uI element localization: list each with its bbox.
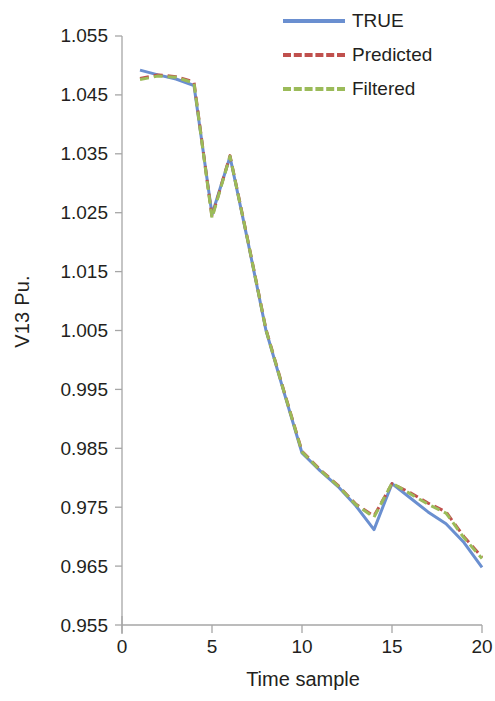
axes	[115, 36, 482, 634]
series-line-true	[140, 70, 482, 567]
plot-area	[0, 0, 495, 701]
chart-figure: V13 Pu. 1.055 1.045 1.035 1.025 1.015 1.…	[0, 0, 495, 701]
data-series	[140, 70, 482, 567]
series-line-predicted	[140, 75, 482, 557]
series-line-filtered	[140, 76, 482, 558]
